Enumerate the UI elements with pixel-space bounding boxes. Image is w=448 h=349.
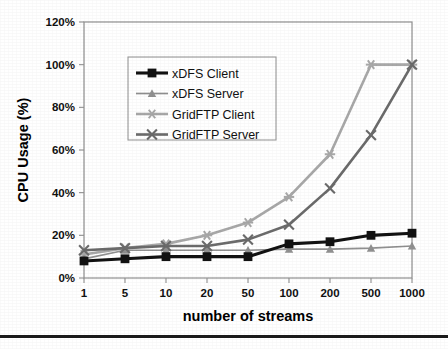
data-point-marker — [203, 252, 212, 261]
y-tick-label: 0% — [58, 272, 75, 284]
x-tick-label: 1000 — [399, 287, 425, 299]
legend-entry-label: xDFS Client — [172, 67, 239, 81]
legend-entry-label: GridFTP Client — [172, 108, 255, 122]
y-tick-label: 60% — [52, 144, 75, 156]
chart-figure: 0%20%40%60%80%100%120% 15102050100200500… — [0, 0, 448, 349]
data-point-marker — [408, 229, 417, 238]
y-tick-label: 80% — [52, 101, 75, 113]
data-point-marker — [162, 252, 171, 261]
y-axis-title: CPU Usage (%) — [15, 97, 31, 202]
data-point-marker — [285, 239, 294, 248]
cpu-usage-line-chart: 0%20%40%60%80%100%120% 15102050100200500… — [0, 0, 448, 349]
y-tick-label: 120% — [46, 16, 75, 28]
legend-entry-label: xDFS Server — [172, 87, 244, 101]
x-axis-title: number of streams — [183, 308, 314, 324]
x-tick-label: 1 — [81, 287, 88, 299]
x-tick-label: 10 — [160, 287, 173, 299]
x-tick-label: 200 — [320, 287, 339, 299]
x-tick-label: 500 — [361, 287, 380, 299]
data-point-marker — [121, 254, 130, 263]
x-tick-label: 50 — [242, 287, 255, 299]
chart-legend: xDFS ClientxDFS ServerGridFTP ClientGrid… — [128, 57, 276, 142]
page-bottom-rule — [0, 335, 448, 338]
y-tick-label: 40% — [52, 187, 75, 199]
x-axis: 151020501002005001000 — [81, 278, 425, 299]
x-tick-label: 100 — [279, 287, 298, 299]
x-tick-label: 5 — [122, 287, 129, 299]
data-point-marker — [80, 257, 89, 266]
x-tick-label: 20 — [201, 287, 214, 299]
y-tick-label: 20% — [52, 229, 75, 241]
legend-entry-label: GridFTP Server — [172, 128, 259, 142]
data-point-marker — [367, 231, 376, 240]
data-point-marker — [326, 237, 335, 246]
y-tick-label: 100% — [46, 59, 75, 71]
data-point-marker — [148, 69, 157, 78]
data-point-marker — [244, 252, 253, 261]
y-axis: 0%20%40%60%80%100%120% — [46, 16, 84, 284]
